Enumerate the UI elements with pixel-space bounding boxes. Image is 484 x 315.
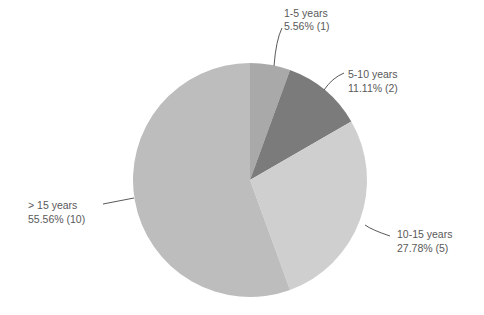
slice-label-5-10-name: 5-10 years bbox=[348, 68, 398, 80]
slice-label-1-5-name: 1-5 years bbox=[284, 7, 328, 19]
leader-line-5-10 bbox=[324, 73, 344, 90]
leader-line-10-15 bbox=[365, 225, 390, 236]
leader-line-gt15 bbox=[103, 198, 134, 204]
pie-chart: 1-5 years 5.56% (1) 5-10 years 11.11% (2… bbox=[0, 0, 484, 315]
leader-line-1-5 bbox=[274, 28, 282, 66]
pie-slices bbox=[133, 63, 367, 297]
slice-label-10-15-name: 10-15 years bbox=[397, 228, 452, 240]
slice-label-10-15-value: 27.78% (5) bbox=[397, 242, 448, 254]
slice-label-5-10-value: 11.11% (2) bbox=[348, 82, 398, 94]
slice-label-1-5-value: 5.56% (1) bbox=[284, 20, 330, 32]
slice-label-gt15-value: 55.56% (10) bbox=[28, 213, 85, 225]
slice-label-gt15-name: > 15 years bbox=[28, 199, 77, 211]
